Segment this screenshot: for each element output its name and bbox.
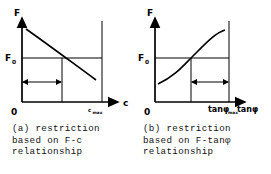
- panel-b-plot: F tanφ F 0 0 tanφ max: [133, 0, 271, 125]
- panel-b: F tanφ F 0 0 tanφ max (b) restriction ba…: [133, 0, 268, 174]
- threshold-label: F: [5, 53, 11, 63]
- threshold-label: F: [138, 53, 144, 63]
- x-limit-label: tanφ: [208, 105, 229, 114]
- panel-a: F c F 0 0 c max (a) restriction based on…: [0, 0, 135, 174]
- x-axis-label: tanφ: [237, 105, 258, 114]
- y-axis-label: F: [147, 8, 153, 18]
- panel-a-plot: F c F 0 0 c max: [0, 0, 135, 125]
- curve-f-c: [26, 29, 96, 80]
- threshold-sublabel: 0: [145, 59, 149, 65]
- panel-a-caption: (a) restriction based on F-c relationshi…: [12, 123, 136, 158]
- x-limit-sublabel: max: [228, 110, 238, 115]
- threshold-sublabel: 0: [12, 59, 16, 65]
- x-limit-sublabel: max: [93, 110, 103, 115]
- y-axis-label: F: [14, 8, 20, 18]
- x-limit-label: c: [88, 107, 91, 113]
- origin-label: 0: [144, 107, 150, 117]
- figure-root: F c F 0 0 c max (a) restriction based on…: [0, 0, 271, 174]
- x-axis-label: c: [123, 98, 128, 108]
- origin-label: 0: [11, 107, 17, 117]
- panel-b-caption: (b) restriction based on F-tanφ relation…: [143, 123, 267, 158]
